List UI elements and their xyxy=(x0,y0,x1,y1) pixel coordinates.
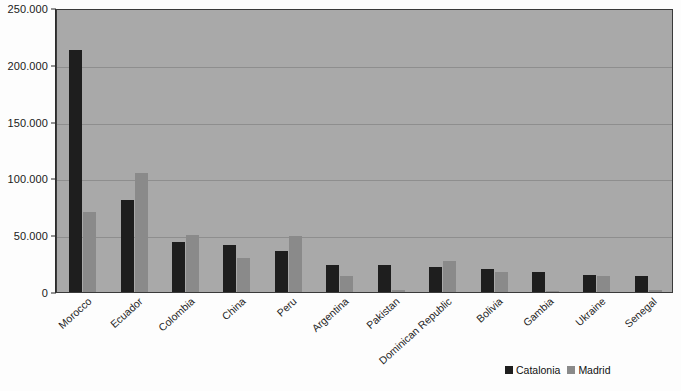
bar xyxy=(429,267,442,292)
bar xyxy=(69,50,82,292)
bar xyxy=(83,212,96,292)
x-axis: MoroccoEcuadorColombiaChinaPeruArgentina… xyxy=(56,293,673,353)
x-axis-tick-label: Senegal xyxy=(622,293,661,330)
y-axis-tick-label: 250.000 xyxy=(8,3,48,15)
bar-group xyxy=(468,10,519,292)
bar-group xyxy=(314,10,365,292)
y-axis-tick-label: 100.000 xyxy=(8,173,48,185)
x-axis-tick-label: Ecuador xyxy=(108,293,147,330)
bar xyxy=(135,173,148,292)
bar xyxy=(121,200,134,292)
x-axis-tick-label: Bolivia xyxy=(474,293,507,325)
x-axis-tick-label: Morocco xyxy=(56,293,96,331)
bar xyxy=(649,290,662,292)
bar xyxy=(546,291,559,292)
chart-legend: CataloniaMadrid xyxy=(505,364,610,376)
plot-area xyxy=(56,9,673,293)
bar xyxy=(223,245,236,292)
y-axis-tick-label: 200.000 xyxy=(8,60,48,72)
y-axis-tick-label: 50.000 xyxy=(14,230,48,242)
legend-item: Madrid xyxy=(567,364,610,376)
bar-group xyxy=(108,10,159,292)
bar xyxy=(583,275,596,292)
bar-group xyxy=(263,10,314,292)
x-axis-tick-label: Peru xyxy=(275,293,302,319)
bar xyxy=(532,272,545,292)
x-axis-tick-label: China xyxy=(219,293,250,322)
bar xyxy=(495,272,508,292)
x-axis-tick-label: Colombia xyxy=(155,293,198,334)
bar-chart: 050.000100.000150.000200.000250.000 Moro… xyxy=(0,0,681,391)
bar xyxy=(186,235,199,292)
legend-swatch-icon xyxy=(505,366,513,374)
bar xyxy=(340,276,353,292)
bar-group xyxy=(623,10,674,292)
bar xyxy=(378,265,391,292)
x-axis-tick-label: Pakistan xyxy=(364,293,404,331)
y-axis-tick-label: 0 xyxy=(42,287,48,299)
bar-group xyxy=(57,10,108,292)
legend-item: Catalonia xyxy=(505,364,560,376)
bar xyxy=(392,290,405,292)
bar-group xyxy=(571,10,622,292)
x-axis-tick-label: Ukraine xyxy=(573,293,610,328)
bar-group xyxy=(366,10,417,292)
bar-group xyxy=(160,10,211,292)
bar-group xyxy=(211,10,262,292)
bar xyxy=(326,265,339,292)
x-axis-tick-label: Gambia xyxy=(521,293,559,329)
bar xyxy=(172,242,185,292)
x-axis-tick-label: Argentina xyxy=(309,293,353,334)
y-axis-tick-label: 150.000 xyxy=(8,117,48,129)
bar xyxy=(289,236,302,292)
legend-item-label: Catalonia xyxy=(516,364,560,376)
bar xyxy=(237,258,250,292)
bar xyxy=(443,261,456,292)
legend-swatch-icon xyxy=(567,366,575,374)
legend-item-label: Madrid xyxy=(578,364,610,376)
bar xyxy=(481,269,494,292)
bar xyxy=(275,251,288,292)
bar-group xyxy=(417,10,468,292)
bar xyxy=(635,276,648,292)
y-axis: 050.000100.000150.000200.000250.000 xyxy=(0,0,56,293)
bar-group xyxy=(520,10,571,292)
bar xyxy=(597,276,610,292)
